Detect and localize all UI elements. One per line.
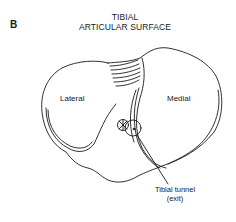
lateral-label: Lateral	[60, 94, 84, 103]
lateral-rim	[46, 104, 116, 151]
callout-leader	[137, 135, 168, 184]
medial-label: Medial	[167, 94, 191, 103]
panel-letter: B	[10, 19, 17, 30]
tibial-tunnel-callout: Tibial tunnel (exit)	[140, 185, 210, 203]
figure-title: TIBIAL ARTICULAR SURFACE	[60, 13, 190, 32]
callout-line-1: Tibial tunnel	[140, 185, 210, 194]
callout-line-2: (exit)	[140, 194, 210, 203]
title-line-2: ARTICULAR SURFACE	[60, 23, 190, 33]
plateau-outline	[42, 48, 222, 182]
